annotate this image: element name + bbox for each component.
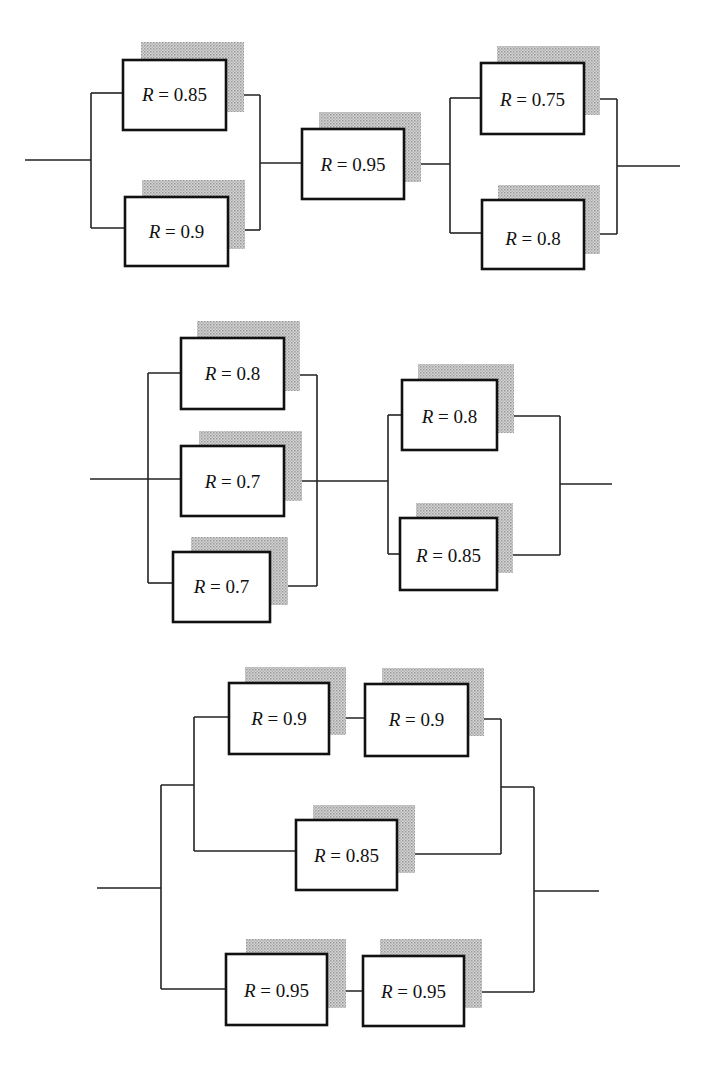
diagram-2-wires bbox=[90, 373, 612, 586]
reliability-value: 0.8 bbox=[237, 363, 261, 384]
component-box: R = 0.8 bbox=[181, 321, 300, 409]
component-box: R = 0.85 bbox=[400, 503, 513, 590]
component-box: R = 0.75 bbox=[481, 46, 600, 134]
reliability-value: 0.95 bbox=[352, 154, 385, 175]
component-box: R = 0.8 bbox=[482, 185, 600, 269]
svg-text:R = 0.85: R = 0.85 bbox=[141, 84, 207, 105]
svg-text:R = 0.95: R = 0.95 bbox=[243, 980, 309, 1001]
reliability-value: 0.85 bbox=[448, 545, 481, 566]
reliability-value: 0.8 bbox=[454, 406, 478, 427]
component-box: R = 0.9 bbox=[365, 668, 484, 756]
svg-text:R = 0.7: R = 0.7 bbox=[204, 471, 261, 492]
reliability-value: 0.8 bbox=[537, 228, 561, 249]
diagram-1: R = 0.85 R = 0.9 R = 0.95 R = 0.75 R = 0… bbox=[25, 42, 680, 269]
reliability-value: 0.75 bbox=[532, 89, 565, 110]
svg-text:R = 0.75: R = 0.75 bbox=[499, 89, 565, 110]
component-box: R = 0.85 bbox=[123, 42, 244, 130]
svg-text:R = 0.85: R = 0.85 bbox=[415, 545, 481, 566]
svg-text:R = 0.7: R = 0.7 bbox=[193, 576, 250, 597]
diagram-2: R = 0.8 R = 0.7 R = 0.7 R = 0.8 R = 0.85 bbox=[90, 321, 612, 622]
reliability-value: 0.85 bbox=[174, 84, 207, 105]
reliability-value: 0.95 bbox=[413, 981, 446, 1002]
reliability-value: 0.9 bbox=[421, 709, 445, 730]
reliability-value: 0.85 bbox=[346, 845, 379, 866]
component-box: R = 0.9 bbox=[229, 667, 346, 754]
svg-text:R = 0.9: R = 0.9 bbox=[250, 708, 307, 729]
svg-text:R = 0.85: R = 0.85 bbox=[313, 845, 379, 866]
reliability-diagrams: R = 0.85 R = 0.9 R = 0.95 R = 0.75 R = 0… bbox=[0, 0, 710, 1065]
svg-text:R = 0.95: R = 0.95 bbox=[380, 981, 446, 1002]
reliability-value: 0.95 bbox=[276, 980, 309, 1001]
svg-text:R = 0.8: R = 0.8 bbox=[204, 363, 261, 384]
component-box: R = 0.9 bbox=[125, 180, 245, 266]
svg-text:R = 0.8: R = 0.8 bbox=[504, 228, 561, 249]
svg-text:R = 0.95: R = 0.95 bbox=[319, 154, 385, 175]
svg-text:R = 0.8: R = 0.8 bbox=[421, 406, 478, 427]
component-box: R = 0.95 bbox=[363, 939, 482, 1026]
component-box: R = 0.95 bbox=[302, 112, 421, 199]
svg-text:R = 0.9: R = 0.9 bbox=[148, 221, 205, 242]
reliability-value: 0.9 bbox=[283, 708, 307, 729]
component-box: R = 0.85 bbox=[296, 805, 415, 890]
component-box: R = 0.95 bbox=[226, 939, 346, 1025]
reliability-symbol: R bbox=[141, 84, 154, 105]
reliability-value: 0.7 bbox=[226, 576, 250, 597]
reliability-value: 0.9 bbox=[181, 221, 205, 242]
component-box: R = 0.7 bbox=[173, 537, 288, 622]
svg-text:R = 0.9: R = 0.9 bbox=[388, 709, 445, 730]
component-box: R = 0.7 bbox=[181, 431, 302, 516]
component-box: R = 0.8 bbox=[402, 364, 514, 450]
diagram-3: R = 0.9 R = 0.9 R = 0.85 R = 0.95 R = 0.… bbox=[97, 667, 599, 1026]
reliability-value: 0.7 bbox=[237, 471, 261, 492]
